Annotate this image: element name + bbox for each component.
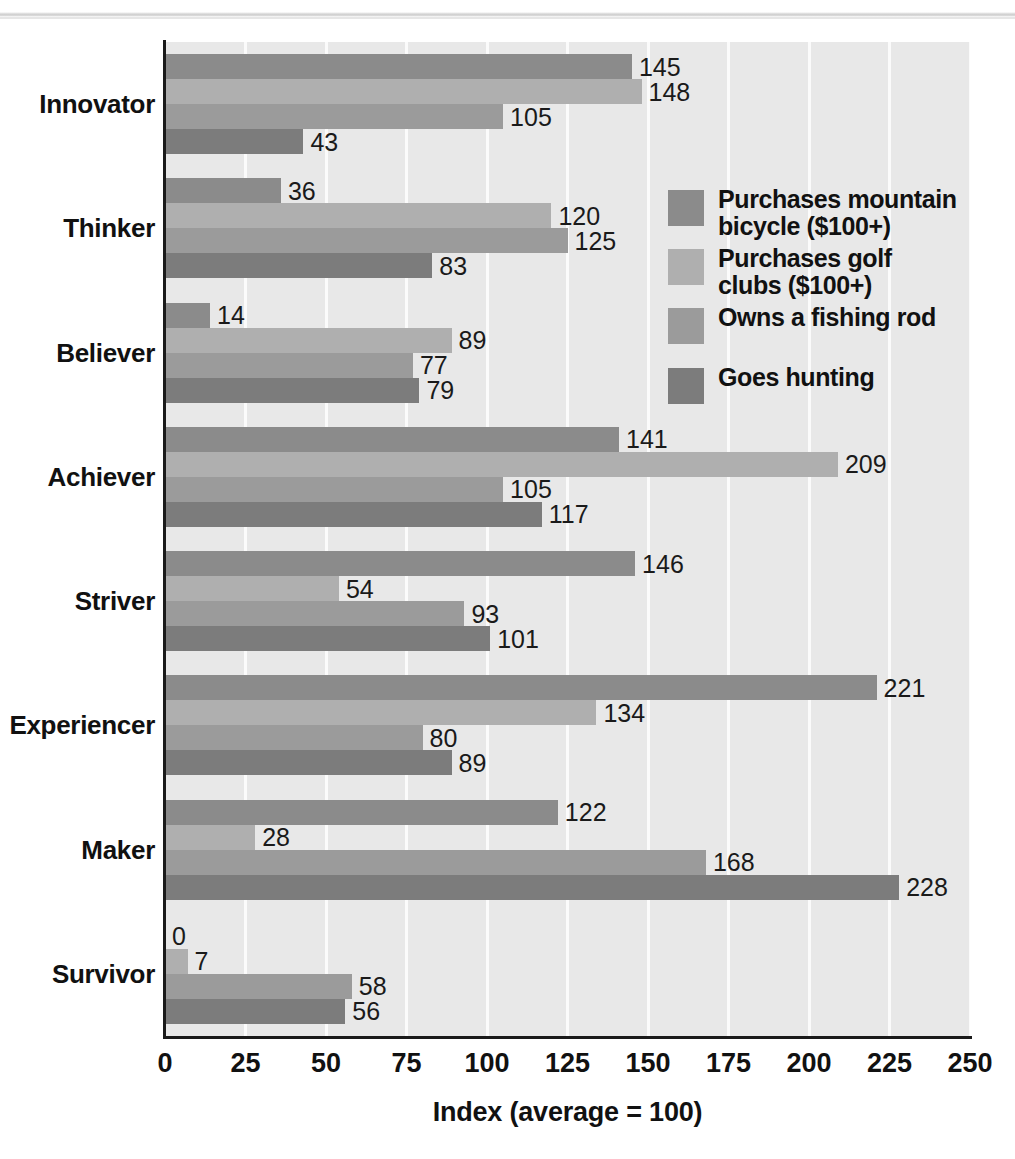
bar-row: 89 — [165, 750, 970, 775]
bar-chart-figure: 1451481054336120125831489777914120910511… — [0, 0, 1015, 1159]
bar[interactable] — [165, 303, 210, 328]
bar-value-label: 89 — [459, 326, 487, 355]
bar-row: 122 — [165, 800, 970, 825]
bar-value-label: 168 — [713, 848, 755, 877]
bar[interactable] — [165, 825, 255, 850]
bar[interactable] — [165, 79, 642, 104]
bar[interactable] — [165, 54, 632, 79]
x-tick-label: 50 — [311, 1048, 341, 1079]
bar[interactable] — [165, 427, 619, 452]
bar-value-label: 79 — [426, 376, 454, 405]
bar-row: 54 — [165, 576, 970, 601]
category-label-innovator: Innovator — [3, 89, 155, 120]
bar-row: 145 — [165, 54, 970, 79]
bar-value-label: 56 — [352, 997, 380, 1026]
bar-group: 1465493101 — [165, 551, 970, 651]
bar-group: 075856 — [165, 924, 970, 1024]
bar[interactable] — [165, 949, 188, 974]
bar-group: 141209105117 — [165, 427, 970, 527]
bar[interactable] — [165, 502, 542, 527]
legend-swatch-icon — [668, 190, 704, 226]
bar-value-label: 141 — [626, 425, 668, 454]
bar[interactable] — [165, 626, 490, 651]
bar-value-label: 134 — [603, 698, 645, 727]
bar[interactable] — [165, 551, 635, 576]
x-tick-label: 225 — [867, 1048, 912, 1079]
bar-value-label: 83 — [439, 251, 467, 280]
bar-row: 105 — [165, 477, 970, 502]
category-label-believer: Believer — [3, 337, 155, 368]
bar[interactable] — [165, 850, 706, 875]
x-tick-label: 175 — [706, 1048, 751, 1079]
bar[interactable] — [165, 353, 413, 378]
x-tick-label: 100 — [464, 1048, 509, 1079]
bar[interactable] — [165, 178, 281, 203]
legend-label: Purchases golfclubs ($100+) — [718, 245, 892, 298]
bar-value-label: 105 — [510, 102, 552, 131]
bar-value-label: 43 — [310, 127, 338, 156]
bar[interactable] — [165, 477, 503, 502]
x-tick-label: 75 — [391, 1048, 421, 1079]
x-tick-label: 150 — [625, 1048, 670, 1079]
legend-swatch-icon — [668, 368, 704, 404]
bar-row: 228 — [165, 875, 970, 900]
bar[interactable] — [165, 203, 551, 228]
legend-label: Owns a fishing rod — [718, 304, 936, 331]
bar[interactable] — [165, 999, 345, 1024]
category-label-striver: Striver — [3, 586, 155, 617]
bar[interactable] — [165, 974, 352, 999]
bar[interactable] — [165, 700, 596, 725]
bar-row: 56 — [165, 999, 970, 1024]
bar[interactable] — [165, 378, 419, 403]
bar[interactable] — [165, 576, 339, 601]
bar-value-label: 228 — [906, 873, 948, 902]
bar-value-label: 54 — [346, 574, 374, 603]
bar-value-label: 209 — [845, 450, 887, 479]
legend-label: Purchases mountainbicycle ($100+) — [718, 186, 957, 239]
bar[interactable] — [165, 750, 452, 775]
bar-value-label: 7 — [195, 947, 209, 976]
bar[interactable] — [165, 800, 558, 825]
bar[interactable] — [165, 228, 568, 253]
category-label-thinker: Thinker — [3, 213, 155, 244]
category-label-experiencer: Experiencer — [3, 710, 155, 741]
bar-row: 146 — [165, 551, 970, 576]
legend-item[interactable]: Goes hunting — [668, 364, 968, 404]
bar-row: 148 — [165, 79, 970, 104]
bar-value-label: 80 — [430, 723, 458, 752]
bar-value-label: 0 — [172, 922, 186, 951]
bar[interactable] — [165, 675, 877, 700]
x-tick-label: 25 — [230, 1048, 260, 1079]
bar-value-label: 122 — [565, 798, 607, 827]
bar-row: 93 — [165, 601, 970, 626]
legend-item[interactable]: Purchases golfclubs ($100+) — [668, 245, 968, 298]
bar-value-label: 89 — [459, 748, 487, 777]
category-axis-labels: InnovatorThinkerBelieverAchieverStriverE… — [0, 0, 155, 1159]
bar-value-label: 146 — [642, 549, 684, 578]
bar-row: 7 — [165, 949, 970, 974]
bar-row: 105 — [165, 104, 970, 129]
bar[interactable] — [165, 601, 464, 626]
legend-swatch-icon — [668, 249, 704, 285]
bar[interactable] — [165, 253, 432, 278]
category-label-achiever: Achiever — [3, 461, 155, 492]
bar-value-label: 148 — [649, 77, 691, 106]
x-axis-tick-labels: 0255075100125150175200225250 — [0, 1048, 1015, 1088]
bar-group: 12228168228 — [165, 800, 970, 900]
bar[interactable] — [165, 725, 423, 750]
bar-value-label: 36 — [288, 176, 316, 205]
x-tick-label: 125 — [545, 1048, 590, 1079]
bar-row: 134 — [165, 700, 970, 725]
bar-row: 80 — [165, 725, 970, 750]
bar[interactable] — [165, 328, 452, 353]
bar-row: 101 — [165, 626, 970, 651]
legend-item[interactable]: Purchases mountainbicycle ($100+) — [668, 186, 968, 239]
bar-value-label: 93 — [471, 599, 499, 628]
bar[interactable] — [165, 875, 899, 900]
y-axis-line — [163, 40, 166, 1038]
legend-item[interactable]: Owns a fishing rod — [668, 304, 968, 344]
bar[interactable] — [165, 452, 838, 477]
bar-value-label: 101 — [497, 624, 539, 653]
bar[interactable] — [165, 129, 303, 154]
bar[interactable] — [165, 104, 503, 129]
